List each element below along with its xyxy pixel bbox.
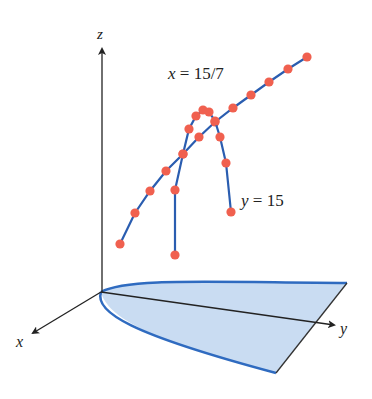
curve-x-label-eq: = 15/7 [180,64,225,83]
curve-y-label-var: y [239,191,249,210]
data-point [264,77,273,86]
x-axis-label: x [15,333,23,350]
data-point [204,107,213,116]
data-point [161,166,170,175]
data-point [194,132,203,141]
data-point [215,132,224,141]
z-axis-label: z [96,26,103,42]
curve-x-label: x = 15/7 [167,64,224,83]
curve-y-label-eq: = 15 [253,191,284,210]
data-point [130,208,139,217]
x-axis [33,292,101,333]
data-point [210,116,219,125]
curve-y-15 [170,105,235,259]
data-point [221,158,230,167]
data-point [184,124,193,133]
data-point [302,52,311,61]
diagram-canvas: z y x x = 15/7 y = 15 [0,0,372,399]
data-point [145,186,154,195]
domain-region [100,282,347,373]
diagram-svg: z y x x = 15/7 y = 15 [0,0,372,399]
data-point [170,185,179,194]
data-point [246,90,255,99]
data-point [191,111,200,120]
curve-x-label-var: x [167,64,176,83]
data-point [170,250,179,259]
data-point [226,207,235,216]
data-point [228,103,237,112]
data-point [178,149,187,158]
data-point [115,239,124,248]
y-axis-label: y [338,320,348,338]
data-point [283,64,292,73]
curve-y-label: y = 15 [239,191,284,210]
